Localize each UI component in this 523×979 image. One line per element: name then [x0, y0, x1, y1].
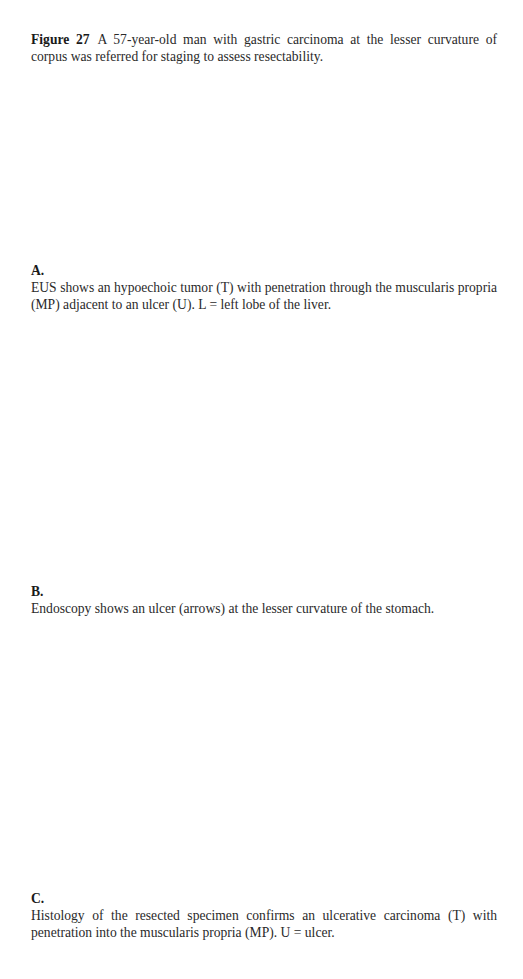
- figure-label: Figure 27: [31, 32, 90, 47]
- figure-caption: Figure 27A 57-year-old man with gastric …: [31, 31, 497, 65]
- figure-caption-text: A 57-year-old man with gastric carcinoma…: [31, 32, 497, 64]
- panel-c-caption: C. Histology of the resected specimen co…: [31, 890, 497, 941]
- panel-b-text: Endoscopy shows an ulcer (arrows) at the…: [31, 600, 497, 617]
- figure-image-slot-c: [31, 622, 497, 884]
- panel-a-letter: A.: [31, 262, 497, 279]
- figure-image-slot-a: [31, 72, 497, 257]
- panel-c-text: Histology of the resected specimen confi…: [31, 907, 497, 941]
- panel-a-caption: A. EUS shows an hypoechoic tumor (T) wit…: [31, 262, 497, 313]
- panel-b-caption: B. Endoscopy shows an ulcer (arrows) at …: [31, 583, 497, 617]
- panel-a-text: EUS shows an hypoechoic tumor (T) with p…: [31, 279, 497, 313]
- figure-image-slot-b: [31, 320, 497, 578]
- panel-c-letter: C.: [31, 890, 497, 907]
- panel-b-letter: B.: [31, 583, 497, 600]
